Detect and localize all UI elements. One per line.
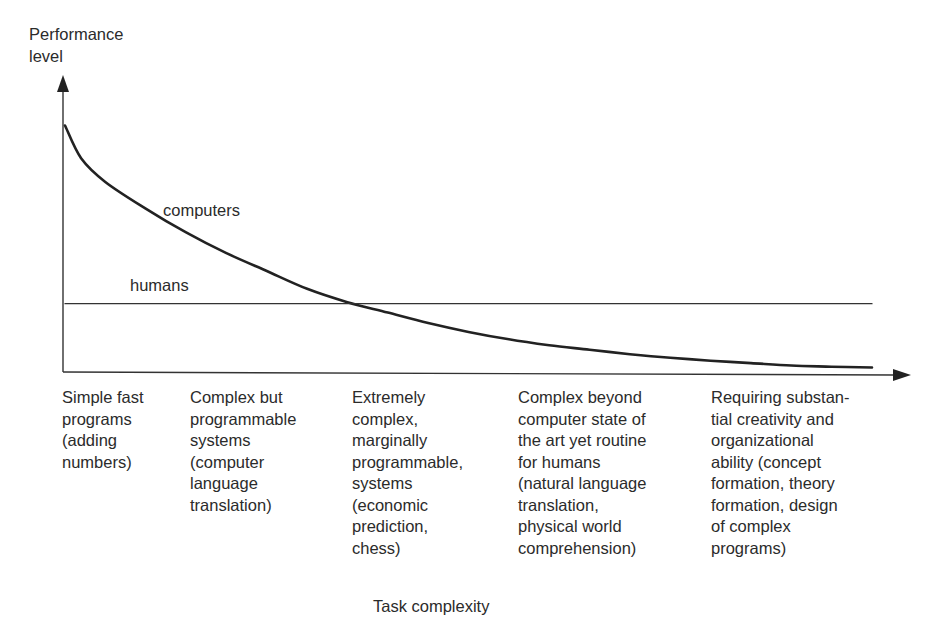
x-axis xyxy=(63,372,895,375)
x-axis-arrowhead xyxy=(893,369,911,381)
x-category-label-3: Extremely complex, marginally programmab… xyxy=(352,387,463,559)
series-label-humans: humans xyxy=(130,276,189,294)
series-line-computers xyxy=(65,126,872,368)
x-category-label-1: Simple fast programs (adding numbers) xyxy=(62,387,144,473)
y-axis-label: Performance level xyxy=(29,24,123,67)
series-label-computers: computers xyxy=(163,201,240,219)
y-axis-arrowhead xyxy=(57,75,69,92)
x-axis-label: Task complexity xyxy=(373,596,489,618)
x-category-label-5: Requiring substan- tial creativity and o… xyxy=(711,387,850,559)
x-category-label-2: Complex but programmable systems (comput… xyxy=(190,387,296,516)
x-category-label-4: Complex beyond computer state of the art… xyxy=(518,387,646,559)
